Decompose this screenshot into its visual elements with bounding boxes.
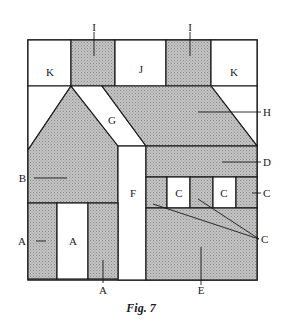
label-g: G	[108, 114, 116, 126]
patch-i-right	[166, 40, 211, 86]
patch-e	[146, 208, 257, 280]
patch-f	[118, 146, 146, 280]
label-k-right: K	[230, 66, 238, 78]
patch-c-shaded-1	[146, 177, 167, 208]
patch-i-left	[71, 40, 115, 86]
label-d: D	[263, 156, 271, 168]
label-c-window-2: C	[220, 187, 227, 199]
label-e: E	[198, 284, 205, 296]
label-a-left: A	[18, 235, 26, 247]
label-a-bottom: A	[99, 284, 107, 296]
patch-k-right	[211, 40, 257, 86]
label-k-left: K	[46, 66, 54, 78]
label-h: H	[263, 106, 271, 118]
label-i-left: I	[92, 21, 96, 33]
patch-k-left	[28, 40, 71, 86]
label-b: B	[19, 172, 26, 184]
patch-c-shaded-3	[236, 177, 257, 208]
label-j: J	[139, 63, 144, 75]
label-c-right: C	[263, 187, 270, 199]
patch-c-shaded-2	[190, 177, 213, 208]
quilt-block-diagram: I I K J K G H D B F C C C C A A A E Fig.…	[0, 0, 282, 328]
label-f: F	[130, 187, 136, 199]
label-c-pointer: C	[261, 233, 268, 245]
label-i-right: I	[188, 21, 192, 33]
figure-caption: Fig. 7	[125, 301, 156, 315]
label-c-window-1: C	[175, 187, 182, 199]
label-a-middle: A	[69, 235, 77, 247]
patch-d	[146, 146, 257, 177]
